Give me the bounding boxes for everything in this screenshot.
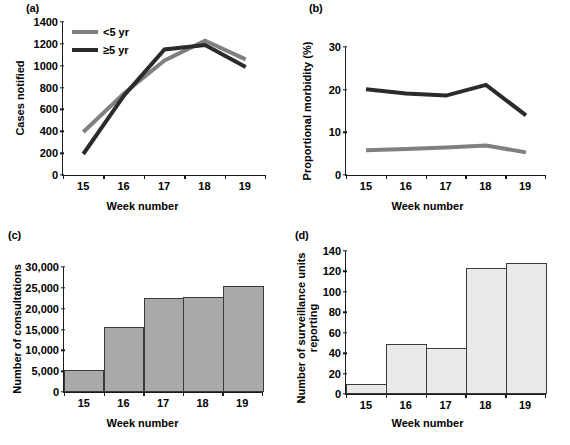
legend-line-swatch-icon — [72, 48, 98, 52]
panel-c-y-tick: 30,000 — [25, 261, 64, 273]
panel-d-x-tick-mark — [386, 394, 387, 398]
panel-d-x-axis-label: Week number — [285, 417, 570, 429]
panel-b-plot-area: 01020301516171819 — [345, 47, 545, 176]
panel-b: (b) Proportional morbidity (%) 010203015… — [285, 0, 570, 222]
panel-d-x-tick-mark — [426, 394, 427, 398]
panel-b-y-tick: 10 — [329, 126, 346, 138]
panel-a-y-tick: 1400 — [34, 16, 63, 28]
panel-a-x-tick-label: 17 — [158, 180, 170, 192]
panel-b-x-tick-label: 16 — [400, 180, 412, 192]
table-row — [104, 327, 144, 392]
panel-a-x-tick-label: 19 — [239, 180, 251, 192]
panel-a-x-axis-label: Week number — [0, 200, 285, 212]
panel-d-x-tick-mark — [505, 394, 506, 398]
panel-a-y-tick: 200 — [40, 147, 63, 159]
panel-d-y-tick: 20 — [329, 368, 346, 380]
panel-d: (d) Number of surveillance units reporti… — [285, 223, 570, 445]
panel-d-y-tick: 80 — [329, 306, 346, 318]
panel-b-y-tick: 20 — [329, 84, 346, 96]
panel-c-y-tick: 15,000 — [25, 324, 64, 336]
panel-a-x-tick-mark — [103, 175, 104, 179]
panel-c-x-tick-mark — [262, 392, 263, 396]
panel-c-y-axis-label: Number of consultations — [11, 249, 23, 409]
panel-a-x-tick-mark — [184, 175, 185, 179]
panel-c-x-tick-mark — [64, 392, 65, 396]
panel-d-x-tick-label: 18 — [479, 399, 491, 411]
panel-b-y-tick: 30 — [329, 41, 346, 53]
panel-c-y-tick: 5,000 — [31, 365, 64, 377]
panel-d-y-tick: 60 — [329, 327, 346, 339]
panel-c-plot-area: 05,00010,00015,00020,00025,00030,0001516… — [63, 267, 262, 393]
panel-d-x-tick-label: 19 — [519, 399, 531, 411]
panel-a: (a) Cases notified 020040060080010001200… — [0, 0, 285, 222]
panel-d-x-tick-label: 16 — [400, 399, 412, 411]
panel-b-y-axis-label: Proportional morbidity (%) — [301, 26, 313, 196]
panel-c-x-tick-mark — [183, 392, 184, 396]
panel-a-legend-label: <5 yr — [103, 26, 129, 38]
panel-a-y-tick: 0 — [52, 169, 63, 181]
panel-a-x-tick-mark — [144, 175, 145, 179]
panel-d-y-tick: 0 — [335, 388, 346, 400]
panel-b-line-series — [366, 145, 526, 152]
panel-b-x-tick-mark — [505, 175, 506, 179]
table-row — [386, 344, 427, 394]
panel-c-y-tick: 20,000 — [25, 303, 64, 315]
panel-a-letter: (a) — [26, 2, 39, 14]
table-row — [506, 263, 547, 394]
table-row — [346, 384, 387, 394]
panel-c-x-tick-label: 16 — [117, 397, 129, 409]
panel-c-x-axis-label: Week number — [0, 417, 285, 429]
panel-d-letter: (d) — [295, 229, 308, 241]
panel-d-y-tick: 120 — [323, 265, 346, 277]
panel-a-x-tick-mark — [225, 175, 226, 179]
table-row — [223, 286, 263, 392]
table-row — [466, 268, 507, 395]
panel-d-x-tick-label: 17 — [439, 399, 451, 411]
panel-d-x-tick-mark — [545, 394, 546, 398]
panel-b-x-axis-label: Week number — [285, 200, 570, 212]
panel-d-x-tick-label: 15 — [360, 399, 372, 411]
panel-b-letter: (b) — [309, 2, 322, 14]
panel-c-letter: (c) — [8, 229, 21, 241]
panel-d-plot-area: 0204060801001201401516171819 — [345, 251, 545, 395]
panel-c: (c) Number of consultations 05,00010,000… — [0, 223, 285, 445]
panel-a-legend-item: <5 yr — [72, 26, 129, 38]
panel-d-x-tick-mark — [346, 394, 347, 398]
panel-d-y-tick: 100 — [323, 286, 346, 298]
panel-b-x-tick-mark — [386, 175, 387, 179]
panel-c-x-tick-mark — [143, 392, 144, 396]
panel-a-x-tick-label: 18 — [198, 180, 210, 192]
panel-a-x-tick-label: 16 — [117, 180, 129, 192]
table-row — [64, 370, 104, 392]
figure-four-panel: (a) Cases notified 020040060080010001200… — [0, 0, 570, 445]
table-row — [426, 348, 467, 394]
panel-c-y-tick: 25,000 — [25, 282, 64, 294]
panel-b-x-tick-mark — [346, 175, 347, 179]
panel-a-x-tick-mark — [265, 175, 266, 179]
table-row — [183, 297, 223, 392]
panel-a-y-tick: 400 — [40, 125, 63, 137]
panel-a-x-tick-label: 15 — [77, 180, 89, 192]
table-row — [144, 298, 184, 392]
panel-c-x-tick-label: 17 — [157, 397, 169, 409]
panel-a-legend-item: ≥5 yr — [72, 44, 129, 56]
panel-b-x-tick-mark — [465, 175, 466, 179]
panel-c-y-tick: 0 — [53, 386, 64, 398]
panel-c-x-tick-label: 18 — [196, 397, 208, 409]
panel-b-x-tick-mark — [426, 175, 427, 179]
panel-b-x-tick-label: 17 — [439, 180, 451, 192]
panel-a-y-tick: 1200 — [34, 38, 63, 50]
panel-b-y-tick: 0 — [335, 169, 346, 181]
panel-a-legend-label: ≥5 yr — [103, 44, 129, 56]
panel-c-y-tick: 10,000 — [25, 344, 64, 356]
panel-c-x-tick-mark — [222, 392, 223, 396]
panel-a-x-tick-mark — [63, 175, 64, 179]
panel-c-x-tick-label: 15 — [78, 397, 90, 409]
panel-a-y-tick: 600 — [40, 103, 63, 115]
panel-c-x-tick-label: 19 — [236, 397, 248, 409]
legend-line-swatch-icon — [72, 30, 98, 34]
panel-b-x-tick-label: 18 — [479, 180, 491, 192]
panel-b-series-group — [346, 47, 546, 176]
panel-c-x-tick-mark — [104, 392, 105, 396]
panel-b-x-tick-label: 15 — [360, 180, 372, 192]
